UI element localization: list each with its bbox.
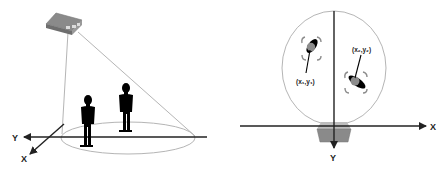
y-axis-label-right: Y (330, 153, 336, 163)
person-top-view-2 (345, 55, 368, 93)
left-panel-perspective-view: Y X (12, 13, 207, 164)
right-panel-top-view: X Y (x₁,y₁) (x₂,y₂) (240, 11, 436, 163)
person-silhouette-2 (119, 83, 133, 132)
person-2-coordinate-label: (x₂,y₂) (352, 46, 371, 54)
person-top-view-1 (302, 37, 321, 73)
y-axis-label-left: Y (12, 133, 18, 143)
x-axis-left (30, 124, 64, 154)
x-axis-label-left: X (21, 154, 27, 164)
person-1-coordinate-label: (x₁,y₁) (296, 78, 315, 86)
fov-line-right (78, 32, 195, 136)
diagram-canvas: Y X (0, 0, 442, 173)
ceiling-sensor-icon (46, 13, 82, 35)
fov-line-left (62, 32, 68, 134)
x-axis-label-right: X (430, 122, 436, 132)
person-silhouette-1 (80, 95, 95, 147)
